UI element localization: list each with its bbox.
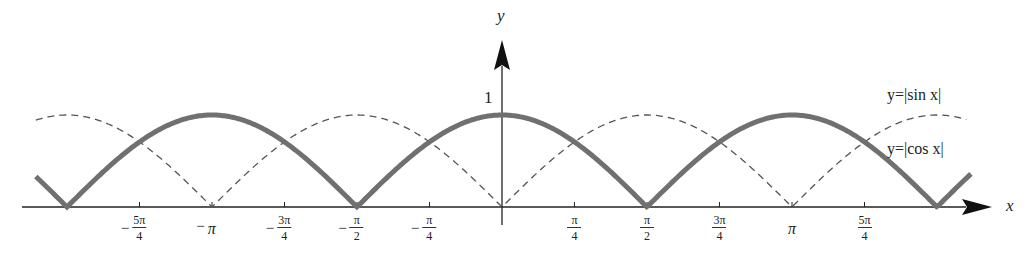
fraction-bar: [350, 227, 364, 228]
minus-sign: −: [338, 220, 346, 237]
fraction: π2: [350, 214, 364, 242]
fraction-bar: [640, 227, 654, 228]
fraction: 5π4: [858, 214, 872, 242]
abs-cos-curve: [36, 115, 971, 207]
minus-sign: −: [196, 218, 204, 235]
fraction-bar: [567, 227, 581, 228]
numerator: π: [644, 214, 650, 226]
y-tick-one: 1: [484, 88, 493, 108]
pi-symbol: π: [208, 214, 216, 238]
abs-sin-curve: [36, 115, 966, 206]
plot-canvas: [0, 0, 1030, 253]
numerator: 3π: [713, 214, 725, 226]
pi-symbol: π: [788, 214, 796, 238]
minus-sign: −: [121, 220, 129, 237]
denominator: 4: [716, 230, 722, 242]
fraction: 3π4: [712, 214, 726, 242]
fraction-bar: [132, 227, 146, 228]
fraction-bar: [277, 227, 291, 228]
denominator: 4: [136, 230, 142, 242]
fraction: π4: [567, 214, 581, 242]
legend-cos: y=|cos x|: [887, 140, 944, 158]
x-tick-label: −3π4: [266, 214, 291, 242]
x-tick-label: −π4: [411, 214, 436, 242]
numerator: π: [354, 214, 360, 226]
denominator: 4: [862, 230, 868, 242]
denominator: 4: [281, 230, 287, 242]
fraction-bar: [422, 227, 436, 228]
x-tick-label: 3π4: [712, 214, 726, 242]
numerator: 5π: [858, 214, 870, 226]
numerator: π: [571, 214, 577, 226]
x-tick-label: −π: [196, 214, 215, 238]
x-axis-label: x: [1006, 196, 1014, 216]
x-tick-label: −π2: [338, 214, 363, 242]
fraction: π4: [422, 214, 436, 242]
x-tick-label: 5π4: [858, 214, 872, 242]
numerator: 3π: [278, 214, 290, 226]
numerator: 5π: [133, 214, 145, 226]
x-tick-label: π2: [640, 214, 654, 242]
x-tick-label: π4: [567, 214, 581, 242]
x-tick-label: −5π4: [121, 214, 146, 242]
y-axis-label: y: [497, 6, 505, 26]
legend-sin: y=|sin x|: [887, 86, 941, 104]
fraction-bar: [712, 227, 726, 228]
x-axis-arrow-icon: [962, 199, 992, 215]
y-axis-arrow-icon: [494, 40, 510, 70]
x-tick-label: π: [788, 214, 796, 238]
denominator: 4: [426, 230, 432, 242]
fraction: 3π4: [277, 214, 291, 242]
fraction: π2: [640, 214, 654, 242]
fraction: 5π4: [132, 214, 146, 242]
fraction-bar: [858, 227, 872, 228]
minus-sign: −: [411, 220, 419, 237]
denominator: 2: [354, 230, 360, 242]
denominator: 4: [571, 230, 577, 242]
numerator: π: [426, 214, 432, 226]
denominator: 2: [644, 230, 650, 242]
minus-sign: −: [266, 220, 274, 237]
